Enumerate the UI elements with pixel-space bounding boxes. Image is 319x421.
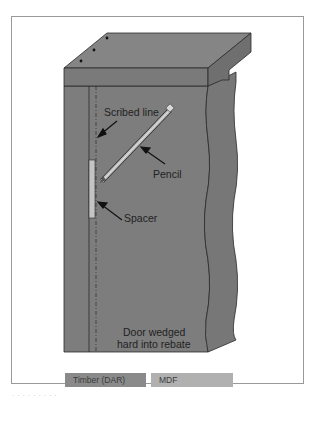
figure-caption: · · · · · · · · · [12, 392, 57, 399]
door-scribing-diagram [0, 0, 319, 421]
spacer [89, 160, 95, 218]
label-door-line2: hard into rebate [117, 338, 191, 350]
label-spacer: Spacer [124, 212, 157, 224]
door-side [204, 72, 237, 352]
nail-dot [80, 60, 83, 63]
label-scribed-line: Scribed line [104, 106, 159, 118]
label-door-line1: Door wedged [123, 326, 185, 338]
nail-dot [106, 37, 109, 40]
legend-timber: Timber (DAR) [65, 373, 146, 387]
nail-dot [93, 49, 96, 52]
head-front [64, 68, 208, 86]
label-pencil: Pencil [153, 168, 182, 180]
legend-mdf: MDF [151, 373, 233, 387]
